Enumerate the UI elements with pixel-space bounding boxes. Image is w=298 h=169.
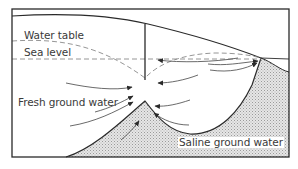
flow-arrow — [66, 83, 132, 89]
flow-arrow — [155, 100, 190, 106]
label-sea-level: Sea level — [24, 47, 71, 58]
flow-arrow — [208, 61, 258, 65]
label-saline-ground-water: Saline ground water — [178, 137, 284, 148]
flow-arrow — [158, 75, 198, 83]
label-fresh-ground-water: Fresh ground water — [18, 97, 118, 108]
label-water-table: Water table — [24, 30, 84, 41]
sea-surface — [261, 58, 289, 59]
